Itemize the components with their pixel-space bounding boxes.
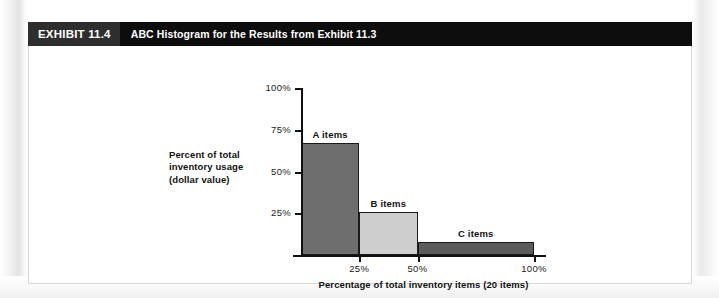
exhibit-title: ABC Histogram for the Results from Exhib… xyxy=(120,22,377,46)
y-axis-title-line: Percent of total xyxy=(169,149,289,162)
bar-b-items[interactable] xyxy=(359,212,417,255)
y-tick-75 xyxy=(295,130,302,132)
page-edge-left-shadow xyxy=(0,0,30,298)
bar-a-items[interactable] xyxy=(301,143,359,255)
y-tick-25 xyxy=(295,213,302,215)
x-axis-line xyxy=(293,255,546,257)
x-tick-label-25: 25% xyxy=(334,263,384,274)
exhibit-body: A itemsB itemsC items25%50%75%100%25%50%… xyxy=(28,46,692,284)
abc-histogram-chart: A itemsB itemsC items25%50%75%100%25%50%… xyxy=(29,46,691,283)
y-tick-50 xyxy=(295,172,302,174)
x-tick-label-50: 50% xyxy=(393,263,443,274)
y-axis-title-line: (dollar value) xyxy=(169,174,289,187)
x-tick-25 xyxy=(359,257,361,262)
page-edge-right-shadow xyxy=(693,0,719,298)
x-tick-50 xyxy=(418,257,420,262)
exhibit-header: EXHIBIT 11.4 ABC Histogram for the Resul… xyxy=(28,22,692,46)
y-tick-100 xyxy=(295,88,302,90)
bar-label-a-items: A items xyxy=(312,129,347,140)
bar-label-b-items: B items xyxy=(371,198,407,209)
y-axis-title-line: inventory usage xyxy=(169,161,289,174)
exhibit-card: EXHIBIT 11.4 ABC Histogram for the Resul… xyxy=(28,22,692,285)
bar-label-c-items: C items xyxy=(458,228,494,239)
y-tick-label-100: 100% xyxy=(253,82,291,93)
exhibit-number-badge: EXHIBIT 11.4 xyxy=(28,22,120,46)
x-tick-100 xyxy=(534,257,536,262)
x-axis-title: Percentage of total inventory items (20 … xyxy=(319,279,529,290)
y-tick-label-75: 75% xyxy=(253,124,291,135)
bar-c-items[interactable] xyxy=(418,242,535,255)
y-axis-title: Percent of totalinventory usage(dollar v… xyxy=(169,149,289,187)
x-tick-label-100: 100% xyxy=(509,263,559,274)
y-tick-label-25: 25% xyxy=(253,207,291,218)
